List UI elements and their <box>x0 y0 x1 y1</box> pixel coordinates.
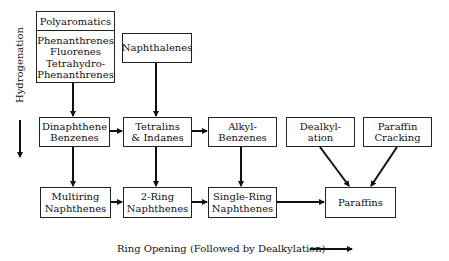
ring-opening-axis-label: Ring Opening (Followed by Dealkylation) <box>117 243 326 254</box>
node-label: Naphthalenes <box>122 42 193 54</box>
polyaromatics-item: Fluorenes <box>50 46 101 58</box>
node-alkyl-benzenes: Alkyl- Benzenes <box>208 117 277 147</box>
node-dinaphthene-benzenes: Dinaphthene Benzenes <box>39 117 110 147</box>
node-label: Cracking <box>374 132 420 144</box>
node-2-ring-naphthenes: 2-Ring Naphthenes <box>123 187 192 218</box>
node-single-ring-naphthenes: Single-Ring Naphthenes <box>208 187 277 218</box>
polyaromatics-item: Tetrahydro- <box>46 58 105 70</box>
node-label: & Indanes <box>131 132 183 144</box>
polyaromatics-item: Phenanthrenes <box>37 69 114 81</box>
polyaromatics-item: Phenanthrenes <box>37 35 114 47</box>
node-label: Naphthenes <box>127 203 188 215</box>
arrow-dealkylation-to-paraffins <box>320 147 349 186</box>
polyaromatics-list: Phenanthrenes Fluorenes Tetrahydro- Phen… <box>37 31 114 84</box>
node-label: Naphthenes <box>212 203 273 215</box>
node-label: Benzenes <box>50 132 98 144</box>
node-label: Alkyl- <box>228 121 257 133</box>
node-label: ation <box>308 132 334 144</box>
node-paraffin-cracking: Paraffin Cracking <box>363 117 432 147</box>
node-label: Naphthenes <box>45 203 106 215</box>
node-label: Dealkyl- <box>300 121 341 133</box>
node-label: Tetralins <box>135 121 180 133</box>
node-label: Paraffin <box>378 121 418 133</box>
polyaromatics-title: Polyaromatics <box>37 12 114 31</box>
node-polyaromatics: Polyaromatics Phenanthrenes Fluorenes Te… <box>36 11 115 83</box>
node-label: Multiring <box>52 191 100 203</box>
node-naphthalenes: Naphthalenes <box>122 33 192 63</box>
node-label: Single-Ring <box>213 191 272 203</box>
arrow-cracking-to-paraffins <box>371 147 397 186</box>
hydrogenation-axis-label: Hydrogenation <box>14 27 25 103</box>
node-label: Dinaphthene <box>42 121 107 133</box>
node-dealkylation: Dealkyl- ation <box>286 117 355 147</box>
node-multiring-naphthenes: Multiring Naphthenes <box>40 187 111 218</box>
node-paraffins: Paraffins <box>325 187 396 218</box>
node-label: Paraffins <box>338 197 383 209</box>
node-tetralins-indanes: Tetralins & Indanes <box>123 117 192 147</box>
node-label: 2-Ring <box>141 191 174 203</box>
node-label: Benzenes <box>218 132 266 144</box>
